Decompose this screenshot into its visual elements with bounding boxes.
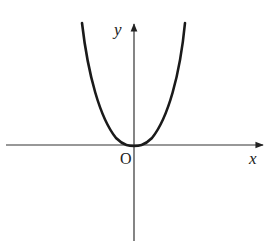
function-graph: y x O <box>0 0 272 243</box>
x-axis-label: x <box>248 149 257 168</box>
origin-label: O <box>120 150 132 167</box>
y-axis-label: y <box>112 20 122 39</box>
